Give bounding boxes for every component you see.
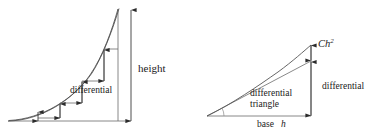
error-term-base: Ch <box>318 38 330 49</box>
base-word: base <box>257 119 274 129</box>
differential-triangle-label: differential triangle <box>250 88 292 110</box>
secant-overlay-curve <box>9 9 119 121</box>
growth-curve <box>8 9 118 121</box>
error-term-exponent: 2 <box>330 37 334 45</box>
differential-label-left: differential <box>70 85 112 96</box>
figure-root: height differential Ch2 differential dif… <box>0 0 384 140</box>
differential-triangle-line1: differential <box>250 88 292 98</box>
base-label: baseh <box>257 119 286 130</box>
differential-label-right: differential <box>322 81 364 92</box>
differential-triangle-line2: triangle <box>250 99 292 110</box>
left-panel-group <box>8 9 131 122</box>
height-label: height <box>138 62 166 75</box>
apex-angle-arc <box>222 108 224 116</box>
figure-canvas <box>0 0 384 140</box>
base-variable: h <box>281 119 286 129</box>
error-term-label: Ch2 <box>318 38 334 50</box>
